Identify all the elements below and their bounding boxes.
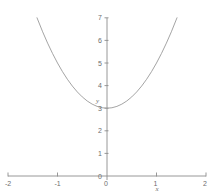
y-tick-label: 6 [98,37,102,44]
x-tick-label: -1 [55,180,61,187]
y-tick-label: 1 [98,150,102,157]
y-tick-label: 5 [98,60,102,67]
y-ticks-group [105,18,109,154]
y-tick-label: 4 [98,82,102,89]
y-tick-label: 3 [98,105,102,112]
x-tick-label: 0 [104,180,108,187]
chart-canvas [0,0,214,196]
axes-group [8,18,206,180]
x-tick-label: 2 [203,180,207,187]
y-axis-label: y [96,98,99,105]
y-tick-label: 0 [98,173,102,180]
y-tick-label: 7 [98,14,102,21]
y-tick-label: 2 [98,127,102,134]
x-axis-label: x [156,186,159,193]
x-tick-label: -2 [5,180,11,187]
parabola-chart: -2-1012 01234567 x y [0,0,214,196]
